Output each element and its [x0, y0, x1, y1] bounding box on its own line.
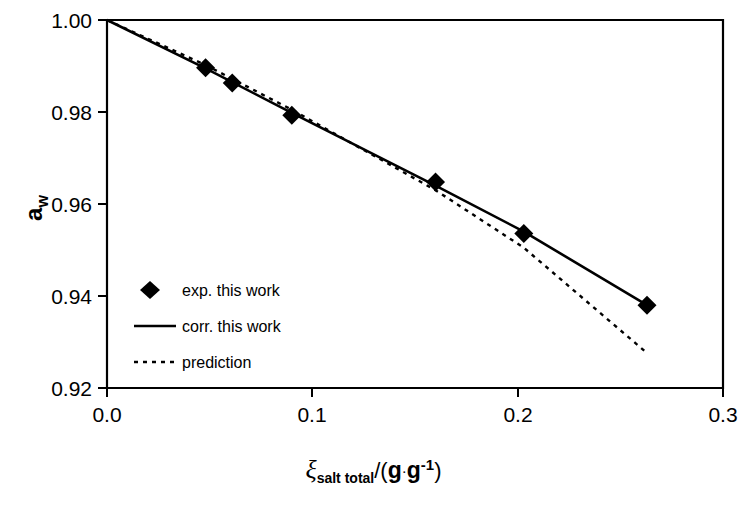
x-axis-title-unit-1: g	[388, 457, 402, 483]
data-point-marker	[638, 296, 657, 315]
x-axis-ticks	[107, 388, 723, 397]
x-tick-label-0.2: 0.2	[503, 403, 532, 426]
y-axis-title: aw	[4, 188, 64, 228]
prediction-dashed-line	[107, 20, 647, 353]
y-tick-label-0.98: 0.98	[51, 101, 92, 124]
legend-label-corr: corr. this work	[182, 318, 282, 335]
y-axis-ticks	[98, 20, 107, 388]
y-tick-label-0.92: 0.92	[51, 377, 92, 400]
water-activity-chart-figure: 1.00 0.98 0.96 0.94 0.92 0.0 0.1 0.2 0.3	[0, 0, 747, 505]
x-axis-title-unit-2: g	[407, 457, 421, 483]
legend-label-exp: exp. this work	[182, 282, 281, 299]
x-tick-label-0.1: 0.1	[297, 403, 326, 426]
x-tick-label-0.0: 0.0	[92, 403, 121, 426]
x-axis-title-superscript: -1	[421, 456, 434, 473]
y-axis-title-sub: w	[34, 195, 51, 207]
x-axis-tick-labels: 0.0 0.1 0.2 0.3	[92, 403, 737, 426]
x-axis-title: ξsalt total/(g·g-1)	[0, 455, 747, 486]
x-axis-title-sub: salt total	[317, 470, 375, 486]
y-tick-label-0.94: 0.94	[51, 285, 92, 308]
series-prediction	[107, 20, 647, 353]
correlation-solid-line	[107, 20, 647, 305]
x-axis-title-close-paren: )	[434, 458, 441, 483]
x-axis-title-slash: /(	[374, 458, 387, 483]
series-experimental-markers	[196, 58, 656, 314]
legend: exp. this work corr. this work predictio…	[134, 281, 282, 371]
legend-label-prediction: prediction	[182, 354, 251, 371]
legend-diamond-icon	[140, 281, 160, 299]
series-correlation	[107, 20, 647, 305]
data-point-marker	[223, 74, 242, 93]
y-tick-label-1.00: 1.00	[51, 9, 92, 32]
x-axis-title-symbol: ξ	[306, 455, 317, 484]
y-axis-title-main: a	[20, 208, 47, 221]
x-tick-label-0.3: 0.3	[708, 403, 737, 426]
chart-canvas: 1.00 0.98 0.96 0.94 0.92 0.0 0.1 0.2 0.3	[0, 0, 747, 505]
